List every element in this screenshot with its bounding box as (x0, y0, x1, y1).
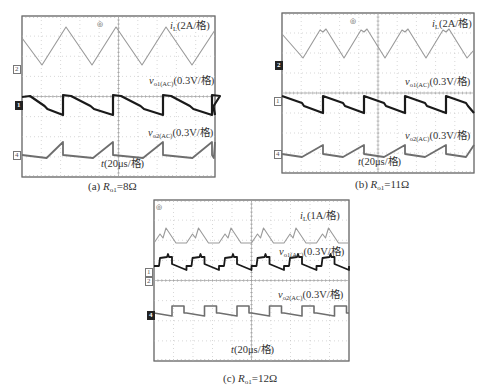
label-time-c: t(20μs/格) (231, 345, 274, 356)
caption-c: (c) Ro1=12Ω (223, 372, 277, 386)
scope-panel-c: ◎ iL(1A/格) vo1(AC)(0.3V/格) vo2(AC)(0.3V/… (0, 0, 487, 391)
scope-grid (154, 200, 349, 361)
channel-marker-1-c: 1 (145, 268, 153, 277)
trigger-marker-icon: ◎ (156, 203, 162, 211)
label-vo1-c: vo1(AC)(0.3V/格) (279, 247, 344, 259)
scope-plot-c: ◎ (0, 0, 487, 391)
label-il-c: iL(1A/格) (300, 211, 340, 223)
channel-marker-4-c: 4 (147, 311, 155, 320)
channel-marker-2-c: 2 (145, 277, 153, 286)
label-vo2-c: vo2(AC)(0.3V/格) (278, 290, 343, 302)
